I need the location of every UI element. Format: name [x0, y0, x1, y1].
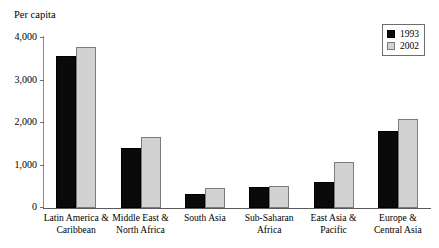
y-axis-tick-label: 3,000	[15, 74, 38, 86]
bar-2002	[205, 188, 225, 208]
bar-1993	[249, 187, 269, 208]
bar-group	[308, 38, 360, 208]
bar-2002	[76, 47, 96, 209]
legend-label-1993: 1993	[400, 29, 419, 40]
plot-area	[44, 38, 430, 208]
bar-group-bars	[179, 38, 231, 208]
bar-1993	[378, 131, 398, 208]
bar-chart: Per capita 01,0002,0003,0004,000 Latin A…	[0, 0, 439, 248]
bar-group-bars	[372, 38, 424, 208]
legend-swatch-2002-icon	[387, 42, 395, 50]
legend-item: 1993	[387, 28, 419, 40]
x-axis-category-label: Europe & Central Asia	[360, 212, 436, 235]
bar-2002	[269, 186, 289, 208]
y-axis-tick-label: 2,000	[15, 116, 38, 128]
bar-group-bars	[50, 38, 102, 208]
legend-label-2002: 2002	[400, 41, 419, 52]
bar-group-bars	[115, 38, 167, 208]
bar-group-bars	[308, 38, 360, 208]
bar-group	[50, 38, 102, 208]
bar-1993	[314, 182, 334, 208]
bar-1993	[121, 148, 141, 208]
legend: 1993 2002	[382, 24, 425, 56]
y-axis-tick-label: 0	[32, 201, 37, 213]
y-axis-tick-label: 4,000	[15, 31, 38, 43]
y-axis-tick-label: 1,000	[15, 159, 38, 171]
bar-group	[115, 38, 167, 208]
bar-2002	[398, 119, 418, 208]
bar-group	[243, 38, 295, 208]
bar-2002	[141, 137, 161, 208]
bar-group	[179, 38, 231, 208]
bar-1993	[185, 194, 205, 208]
legend-swatch-1993-icon	[387, 30, 395, 38]
bar-group-bars	[243, 38, 295, 208]
bar-group	[372, 38, 424, 208]
legend-item: 2002	[387, 40, 419, 52]
bar-2002	[334, 162, 354, 208]
x-axis-line	[43, 208, 431, 209]
y-axis-title: Per capita	[14, 9, 56, 21]
bar-1993	[56, 56, 76, 208]
